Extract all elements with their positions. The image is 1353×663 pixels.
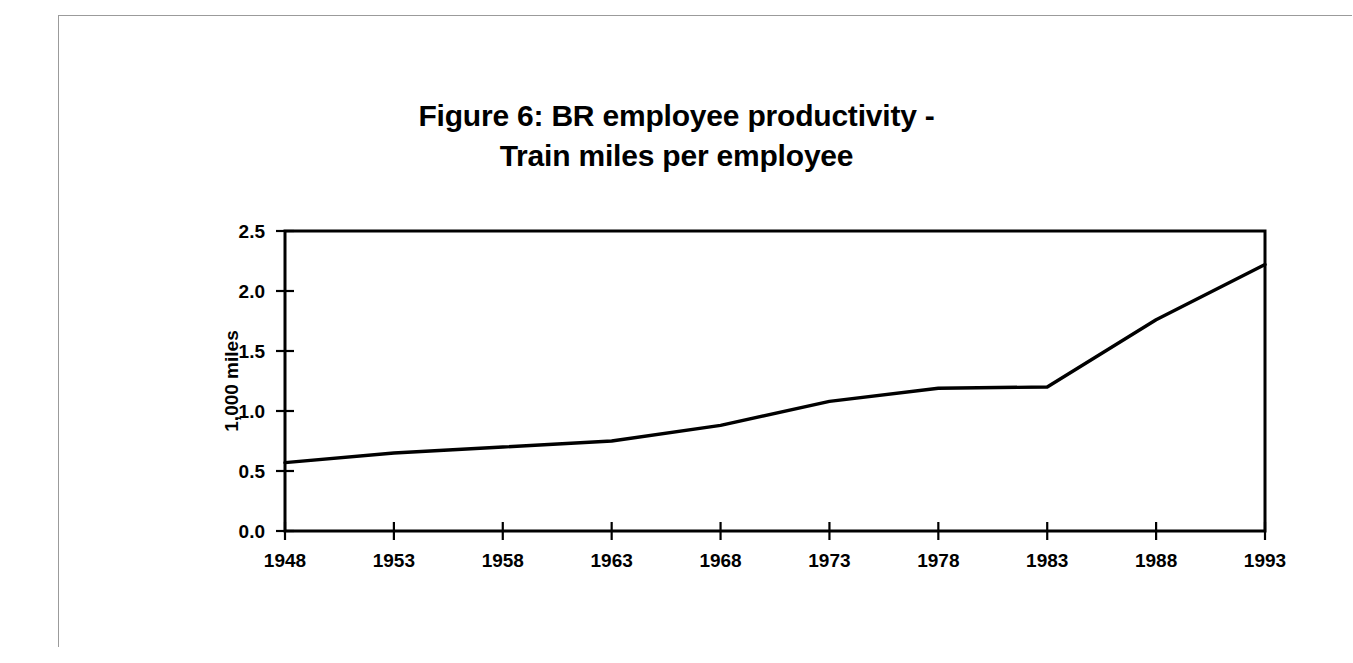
- x-tick-label: 1963: [591, 550, 633, 571]
- x-tick-label: 1978: [917, 550, 959, 571]
- y-tick-label: 0.5: [239, 461, 266, 482]
- line-chart-svg: 0.00.51.01.52.02.5 194819531958196319681…: [0, 0, 1353, 663]
- y-tick-label: 0.0: [239, 521, 265, 542]
- y-tick-label: 1.0: [239, 401, 265, 422]
- plot-frame: [285, 231, 1265, 531]
- figure-container: Figure 6: BR employee productivity - Tra…: [0, 0, 1353, 663]
- x-tick-label: 1953: [373, 550, 415, 571]
- x-tick-label: 1983: [1026, 550, 1068, 571]
- x-tick-label: 1958: [482, 550, 524, 571]
- x-tick-label: 1988: [1135, 550, 1177, 571]
- document-page: Figure 6: BR employee productivity - Tra…: [0, 0, 1353, 663]
- y-tick-label: 1.5: [239, 341, 266, 362]
- x-tick-label: 1968: [699, 550, 741, 571]
- x-axis-tick-labels: 1948195319581963196819731978198319881993: [264, 550, 1286, 571]
- y-axis-label: 1,000 miles: [221, 330, 242, 431]
- y-tick-label: 2.5: [239, 221, 266, 242]
- plot-area-wrapper: 0.00.51.01.52.02.5 194819531958196319681…: [0, 0, 1353, 663]
- y-tick-label: 2.0: [239, 281, 265, 302]
- data-series-line: [285, 265, 1265, 463]
- x-tick-label: 1993: [1244, 550, 1286, 571]
- y-axis-tick-labels: 0.00.51.01.52.02.5: [239, 221, 266, 542]
- x-tick-label: 1973: [808, 550, 850, 571]
- x-tick-label: 1948: [264, 550, 306, 571]
